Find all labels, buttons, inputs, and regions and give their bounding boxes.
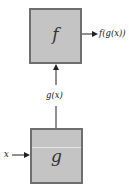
output-arrowhead-icon [92, 31, 98, 37]
output-label: f(g(x)) [99, 28, 126, 38]
input-label: x [4, 149, 9, 159]
intermediate-label: g(x) [46, 90, 63, 100]
function-box-g: g [30, 128, 83, 184]
function-f-label: f [31, 24, 80, 44]
up-arrowhead-icon [53, 64, 59, 70]
function-box-f: f [29, 8, 82, 64]
function-g-label: g [32, 146, 81, 166]
